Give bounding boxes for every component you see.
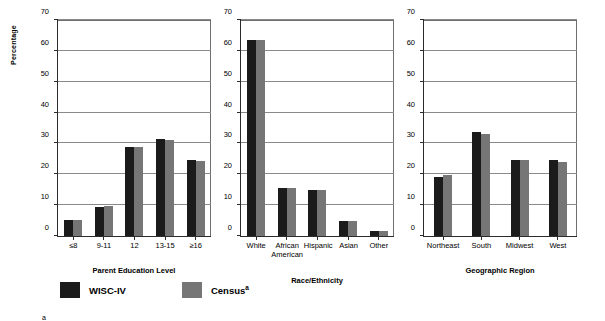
bar-group xyxy=(370,20,388,236)
bar-wisc-iv xyxy=(308,190,317,237)
x-axis-tick xyxy=(256,236,257,240)
bar-groups xyxy=(58,20,211,236)
legend-label-census-text: Census xyxy=(211,285,245,296)
y-axis-tick-label: 70 xyxy=(407,7,415,16)
y-axis-tick-label: 50 xyxy=(41,68,49,77)
x-axis-tick-label: ≥16 xyxy=(180,241,211,250)
bar-group xyxy=(278,20,296,236)
y-axis-tick-label: 70 xyxy=(224,7,232,16)
plot-area: 010203040506070 WhiteAfrican AmericanHis… xyxy=(240,20,394,237)
bar-census xyxy=(558,162,567,236)
y-axis-tick-label: 60 xyxy=(407,37,415,46)
plot-area: 010203040506070 ≤89-111213-15≥16 xyxy=(57,20,211,237)
bar-group xyxy=(125,20,143,236)
y-axis-tick-label: 30 xyxy=(41,130,49,139)
bar-group xyxy=(549,20,567,236)
bar-group xyxy=(187,20,205,236)
y-axis-tick-label: 20 xyxy=(224,161,232,170)
x-axis-tick xyxy=(73,236,74,240)
bar-group xyxy=(156,20,174,236)
x-axis-tick xyxy=(317,236,318,240)
x-axis-tick-label: 13-15 xyxy=(150,241,181,250)
y-axis-tick-label: 70 xyxy=(41,7,49,16)
bar-census xyxy=(348,221,357,236)
y-axis-tick-label: 0 xyxy=(411,223,415,232)
y-axis-tick-label: 40 xyxy=(224,99,232,108)
x-axis-tick xyxy=(481,236,482,240)
x-axis-tick xyxy=(165,236,166,240)
bar-census xyxy=(481,134,490,236)
y-axis-tick-label: 0 xyxy=(45,223,49,232)
bar-group xyxy=(472,20,490,236)
y-axis-tick-label: 40 xyxy=(41,99,49,108)
x-axis-tick xyxy=(443,236,444,240)
x-axis-tick xyxy=(134,236,135,240)
bar-wisc-iv xyxy=(511,160,520,236)
y-axis-tick-label: 60 xyxy=(224,37,232,46)
legend-census-superscript: a xyxy=(245,284,249,291)
bar-groups xyxy=(241,20,394,236)
bar-group xyxy=(247,20,265,236)
x-axis-tick-label: West xyxy=(539,241,577,250)
bar-wisc-iv xyxy=(64,220,73,236)
x-axis-tick xyxy=(519,236,520,240)
y-axis-tick-label: 20 xyxy=(41,161,49,170)
x-axis-tick-label: Hispanic xyxy=(303,241,333,259)
y-axis-tick-label: 10 xyxy=(41,192,49,201)
y-axis-tick-label: 0 xyxy=(228,223,232,232)
x-axis-tick-label: ≤8 xyxy=(58,241,89,250)
bar-wisc-iv xyxy=(472,132,481,236)
x-axis-tick-label: 12 xyxy=(119,241,150,250)
x-axis-tick xyxy=(378,236,379,240)
chart-legend: WISC-IV Censusa xyxy=(60,282,249,298)
x-axis-tick-label: South xyxy=(462,241,500,250)
x-axis-tick-label: White xyxy=(241,241,271,259)
x-axis-title: Parent Education Level xyxy=(57,266,211,275)
bar-wisc-iv xyxy=(95,207,104,236)
y-axis-tick-label: 50 xyxy=(224,68,232,77)
y-axis-tick-label: 40 xyxy=(407,99,415,108)
bar-census xyxy=(443,175,452,236)
bar-wisc-iv xyxy=(434,177,443,236)
y-axis-tick-label: 50 xyxy=(407,68,415,77)
grouped-bar-chart-figure: Percentage 010203040506070 ≤89-111213-15… xyxy=(0,0,605,321)
x-axis-tick-label: Asian xyxy=(333,241,363,259)
bar-census xyxy=(256,40,265,236)
bar-group xyxy=(95,20,113,236)
bar-wisc-iv xyxy=(549,160,558,236)
x-axis-tick xyxy=(557,236,558,240)
bar-wisc-iv xyxy=(247,40,256,236)
x-axis-tick-label: Other xyxy=(364,241,394,259)
bar-wisc-iv xyxy=(278,188,287,236)
bar-census xyxy=(317,190,326,237)
bar-group xyxy=(434,20,452,236)
plot-area: 010203040506070 NortheastSouthMidwestWes… xyxy=(423,20,577,237)
y-axis-tick-label: 60 xyxy=(41,37,49,46)
x-axis-labels: ≤89-111213-15≥16 xyxy=(58,241,211,250)
panel-geographic-region: 010203040506070 NortheastSouthMidwestWes… xyxy=(423,20,577,237)
y-axis-tick-label: 30 xyxy=(224,130,232,139)
x-axis-tick-label: African American xyxy=(271,241,303,259)
bar-group xyxy=(64,20,82,236)
x-axis-tick-label: Midwest xyxy=(501,241,539,250)
bar-census xyxy=(520,160,529,236)
y-axis-title: Percentage xyxy=(10,0,17,90)
bar-group xyxy=(511,20,529,236)
x-axis-tick xyxy=(348,236,349,240)
x-axis-tick-label: Northeast xyxy=(424,241,462,250)
bar-census xyxy=(104,206,113,236)
x-axis-tick xyxy=(195,236,196,240)
bar-wisc-iv xyxy=(339,221,348,236)
bar-census xyxy=(165,140,174,236)
bar-census xyxy=(73,220,82,236)
x-axis-title: Race/Ethnicity xyxy=(240,276,394,285)
bar-wisc-iv xyxy=(156,139,165,236)
x-axis-ticks xyxy=(58,236,211,240)
legend-label-wisc-iv: WISC-IV xyxy=(89,285,126,296)
y-axis-tick-label: 20 xyxy=(407,161,415,170)
x-axis-ticks xyxy=(424,236,577,240)
legend-label-census: Censusa xyxy=(211,284,249,296)
bar-group xyxy=(308,20,326,236)
bar-wisc-iv xyxy=(125,147,134,236)
legend-swatch-wisc-iv xyxy=(60,282,80,298)
